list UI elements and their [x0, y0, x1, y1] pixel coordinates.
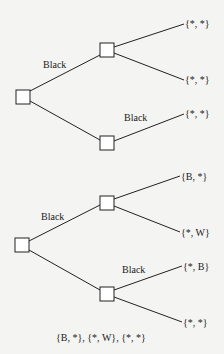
tree-1-leaf-1: {*, *}	[185, 18, 210, 29]
game-tree-diagram: Black Black {*, *} {*, *} {*, *} Black B…	[0, 0, 224, 354]
tree-1-leaf-2: {*, *}	[185, 74, 210, 85]
tree-2-upper-node	[100, 196, 114, 210]
tree-2-edge-label-1: Black	[41, 211, 64, 222]
tree-1-upper-node	[100, 43, 114, 57]
tree-1-lower-node	[100, 136, 114, 150]
tree-1-edges	[30, 24, 184, 141]
tree-1-edge-label-2: Black	[124, 112, 147, 123]
tree-2-root-node	[15, 238, 29, 252]
tree-2-leaf-1: {B, *}	[181, 171, 207, 182]
tree-2-caption: {B, *}, {*, W}, {*, *}	[56, 332, 146, 343]
tree-2-leaf-3: {*, B}	[183, 261, 209, 272]
tree-1-leaf-3: {*, *}	[185, 108, 210, 119]
tree-2-leaf-4: {*, *}	[183, 317, 208, 328]
tree-2-lower-node	[100, 287, 114, 301]
tree-2-edge-label-2: Black	[122, 264, 145, 275]
tree-1-root-node	[16, 90, 30, 104]
tree-1-edge-label-1: Black	[43, 59, 66, 70]
diagram-canvas: Black Black {*, *} {*, *} {*, *} Black B…	[0, 0, 224, 354]
tree-2-leaf-2: {*, W}	[181, 227, 210, 238]
tree-2-nodes	[15, 196, 114, 301]
